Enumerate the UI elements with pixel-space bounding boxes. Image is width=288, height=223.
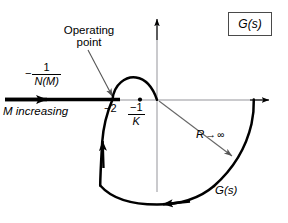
minus-one-over-k-label: −1 K: [128, 102, 145, 127]
describing-function-numerator: 1: [42, 62, 52, 73]
describing-function-denominator: N(M): [32, 76, 60, 87]
describing-function-label: − 1 N(M): [25, 62, 61, 87]
gs-left-direction-arrow-icon: [103, 141, 104, 168]
gs-upper-loop: [113, 77, 158, 99]
radius-limit: ∞: [217, 129, 224, 140]
tick-label-minus-two: −2: [104, 103, 117, 115]
gs-title-box: G(s): [228, 12, 272, 36]
operating-point-leader-arrow: [88, 50, 113, 97]
nyquist-describing-function-figure: Operating point − 1 N(M) M increasing −2…: [0, 0, 288, 223]
gs-curve-label: G(s): [215, 184, 237, 196]
operating-point-label: Operating point: [54, 24, 124, 48]
m-increasing-label: M increasing: [3, 105, 68, 117]
radius-label: R→∞: [196, 128, 224, 141]
k-fraction: −1 K: [128, 102, 145, 127]
k-numerator: −1: [128, 102, 145, 113]
radius-arrow-glyph-icon: →: [204, 128, 217, 140]
gs-bottom-direction-arrow-icon: [163, 202, 190, 205]
describing-function-sign: −: [25, 68, 31, 81]
gs-large-arc: [214, 100, 254, 187]
k-denominator: K: [131, 116, 142, 127]
describing-function-fraction: 1 N(M): [32, 62, 60, 87]
